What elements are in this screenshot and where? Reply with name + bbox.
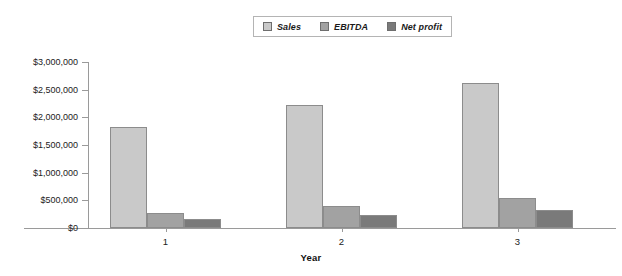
x-axis-title: Year xyxy=(0,252,622,263)
bar xyxy=(147,213,184,228)
x-axis-tick-mark xyxy=(342,228,343,232)
legend-swatch-icon xyxy=(320,22,329,31)
y-axis-tick-label: $2,500,000 xyxy=(0,85,78,95)
bar xyxy=(110,127,147,228)
legend-swatch-icon xyxy=(263,22,272,31)
legend-item[interactable]: Sales xyxy=(263,22,301,32)
bar xyxy=(323,206,360,228)
y-axis-tick-label: $1,000,000 xyxy=(0,168,78,178)
x-axis-tick-mark xyxy=(166,228,167,232)
x-axis-tick-label: 3 xyxy=(488,236,548,247)
bar xyxy=(360,215,397,228)
x-axis-tick-label: 2 xyxy=(312,236,372,247)
y-axis-tick-mark xyxy=(82,228,88,229)
bar xyxy=(499,198,536,228)
bar xyxy=(286,105,323,228)
bar xyxy=(462,83,499,228)
legend-swatch-icon xyxy=(387,22,396,31)
bar xyxy=(184,219,221,228)
y-axis-tick-label: $0 xyxy=(0,223,78,233)
x-axis-tick-mark xyxy=(518,228,519,232)
chart-legend: SalesEBITDANet profit xyxy=(253,16,452,37)
legend-item-label: Sales xyxy=(277,22,301,32)
legend-item-label: EBITDA xyxy=(334,22,368,32)
y-axis-tick-label: $500,000 xyxy=(0,195,78,205)
x-axis-tick-label: 1 xyxy=(136,236,196,247)
legend-item-label: Net profit xyxy=(401,22,442,32)
legend-item[interactable]: Net profit xyxy=(387,22,442,32)
y-axis-tick-label: $2,000,000 xyxy=(0,112,78,122)
y-axis-tick-label: $1,500,000 xyxy=(0,140,78,150)
legend-item[interactable]: EBITDA xyxy=(320,22,368,32)
bar-chart: SalesEBITDANet profit $0$500,000$1,000,0… xyxy=(0,0,622,276)
bar xyxy=(536,210,573,228)
y-axis-tick-label: $3,000,000 xyxy=(0,57,78,67)
x-axis-line xyxy=(24,228,616,229)
plot-area xyxy=(88,62,616,228)
